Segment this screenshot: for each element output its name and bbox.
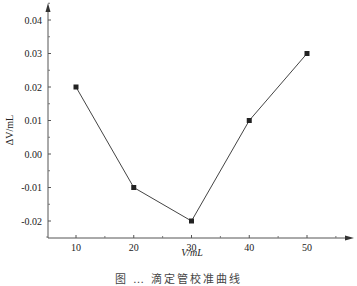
y-tick-label: 0.00 [25,149,43,160]
y-tick-label: -0.01 [21,182,42,193]
y-axis-label: ΔV/mL [4,115,15,145]
y-tick-label: -0.02 [21,216,42,227]
y-tick-label: 0.02 [25,82,43,93]
y-axis-ticks: 0.040.030.020.010.00-0.01-0.02 [21,3,51,226]
data-series [74,51,310,224]
data-point-square-icon [247,118,252,123]
x-axis-arrow-icon [345,236,354,241]
data-point-square-icon [189,219,194,224]
x-axis-label: V/mL [181,247,203,258]
y-tick-label: 0.04 [25,15,43,26]
series-line [76,54,307,222]
y-tick-label: 0.01 [25,115,43,126]
data-point-square-icon [305,51,310,56]
y-tick-label: 0.03 [25,48,43,59]
x-tick-label: 10 [71,242,81,253]
y-axis-arrow-icon [46,3,51,12]
x-tick-label: 50 [302,242,312,253]
x-tick-label: 20 [129,242,139,253]
axes [46,3,355,241]
data-point-square-icon [74,85,79,90]
x-tick-label: 40 [244,242,254,253]
figure-caption: 图 … 滴定管校准曲线 [0,270,357,286]
data-point-square-icon [131,185,136,190]
